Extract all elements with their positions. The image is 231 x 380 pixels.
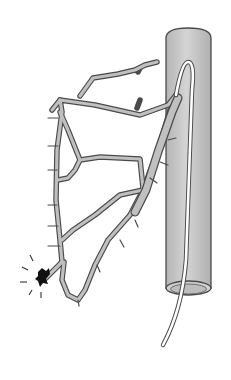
branch-artery-tree: [46, 62, 178, 306]
diagram-canvas: [0, 0, 231, 380]
bleeding-site: [20, 255, 50, 298]
